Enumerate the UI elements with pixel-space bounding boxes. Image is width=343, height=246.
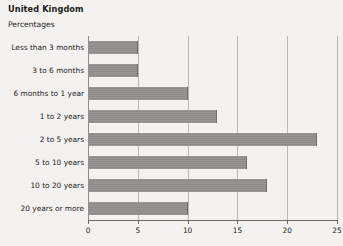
x-tick (88, 220, 89, 224)
bar-band (88, 41, 337, 54)
chart-page: United Kingdom Percentages 0510152025 Le… (0, 0, 343, 246)
category-label: 1 to 2 years (0, 112, 84, 121)
bar-band (88, 133, 337, 146)
x-tick-label: 5 (135, 226, 140, 235)
bar (88, 87, 188, 100)
page-subtitle: Percentages (8, 20, 55, 29)
gridline (337, 36, 338, 220)
bar (88, 133, 317, 146)
category-label: 10 to 20 years (0, 181, 84, 190)
x-tick-label: 10 (183, 226, 192, 235)
bar-band (88, 87, 337, 100)
plot-area (88, 36, 337, 220)
bar (88, 179, 267, 192)
x-tick-label: 0 (86, 226, 91, 235)
bar (88, 110, 217, 123)
x-tick-label: 25 (332, 226, 341, 235)
bar (88, 64, 138, 77)
x-tick (287, 220, 288, 224)
bar (88, 156, 247, 169)
category-label: 2 to 5 years (0, 135, 84, 144)
category-label: 5 to 10 years (0, 158, 84, 167)
page-title: United Kingdom (8, 4, 84, 14)
bar (88, 202, 188, 215)
bar-band (88, 64, 337, 77)
bar-band (88, 179, 337, 192)
bar-band (88, 110, 337, 123)
bar-band (88, 156, 337, 169)
category-label: Less than 3 months (0, 43, 84, 52)
x-tick-label: 20 (282, 226, 291, 235)
category-label: 20 years or more (0, 204, 84, 213)
x-tick-label: 15 (233, 226, 242, 235)
x-tick (337, 220, 338, 224)
x-axis-line (88, 220, 338, 221)
category-label: 6 months to 1 year (0, 89, 84, 98)
x-tick (188, 220, 189, 224)
bar (88, 41, 138, 54)
category-label: 3 to 6 months (0, 66, 84, 75)
x-tick (138, 220, 139, 224)
x-tick (237, 220, 238, 224)
bar-band (88, 202, 337, 215)
